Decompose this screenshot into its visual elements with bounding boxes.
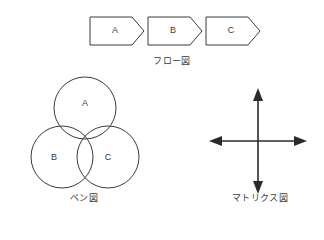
flow-chart-caption: フロー図: [132, 54, 212, 67]
venn-diagram-group: [31, 77, 139, 188]
flow-step-a-label: A: [93, 25, 137, 35]
venn-circle-c-label: C: [88, 152, 128, 162]
matrix-arrowhead-up: [253, 88, 263, 101]
flow-step-c-label: C: [209, 25, 253, 35]
flow-step-b-label: B: [151, 25, 195, 35]
venn-diagram-caption: ベン図: [44, 191, 124, 204]
matrix-arrowhead-right: [294, 136, 307, 146]
venn-circle-a[interactable]: [54, 77, 116, 139]
venn-circle-a-label: A: [65, 98, 105, 108]
matrix-arrowhead-left: [209, 136, 222, 146]
matrix-diagram-caption: マトリクス図: [218, 191, 302, 204]
venn-circle-b-label: B: [34, 152, 74, 162]
matrix-diagram-group: [209, 88, 307, 194]
